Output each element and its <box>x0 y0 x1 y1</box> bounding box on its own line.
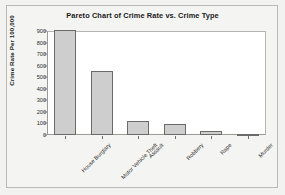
bar <box>127 121 149 135</box>
y-axis-tick-label: 800 <box>6 40 46 46</box>
chart-page: Pareto Chart of Crime Rate vs. Crime Typ… <box>0 0 285 195</box>
y-axis-tick-label: 200 <box>6 109 46 115</box>
y-axis-tick-label: 0 <box>6 132 46 138</box>
plot-area <box>47 31 266 135</box>
bar <box>91 71 113 135</box>
x-axis-tick-mark <box>102 136 103 139</box>
bar <box>164 124 186 135</box>
x-axis-tick-mark <box>248 136 249 139</box>
bar <box>200 131 222 135</box>
x-axis-tick-mark <box>175 136 176 139</box>
y-axis-tick-label: 700 <box>6 51 46 57</box>
y-axis-tick-label: 600 <box>6 63 46 69</box>
bar <box>54 30 76 135</box>
y-axis-tick-label: 400 <box>6 86 46 92</box>
x-axis-tick-mark <box>65 136 66 139</box>
y-axis-tick-label: 100 <box>6 120 46 126</box>
x-axis-tick-mark <box>138 136 139 139</box>
chart-title: Pareto Chart of Crime Rate vs. Crime Typ… <box>0 11 285 20</box>
y-axis-tick-label: 500 <box>6 74 46 80</box>
x-axis-tick-mark <box>211 136 212 139</box>
y-axis-tick-label: 900 <box>6 28 46 34</box>
y-axis-tick-label: 300 <box>6 97 46 103</box>
